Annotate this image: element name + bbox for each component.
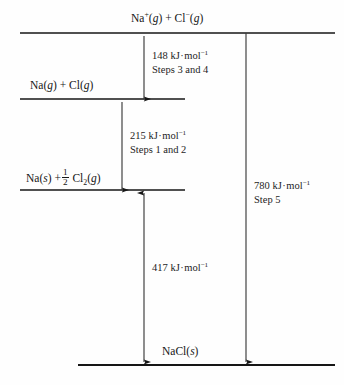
step-label-3-4: Steps 3 and 4 <box>152 63 208 77</box>
level-label-ionic-solid: NaCl(s) <box>162 345 198 358</box>
energy-value-215: 215 kJ·mol−1 <box>130 129 186 143</box>
annotation-417: 417 kJ·mol−1 <box>152 261 208 275</box>
formula-na-atom: Na(g) <box>30 79 57 91</box>
level-label-elements-standard: Na(s) +12 Cl2(g) <box>26 168 101 188</box>
energy-level-diagram: Na+(g) + Cl−(g) Na(g) + Cl(g) Na(s) +12 … <box>0 0 344 385</box>
annotation-148: 148 kJ·mol−1 Steps 3 and 4 <box>152 49 208 77</box>
annotation-215: 215 kJ·mol−1 Steps 1 and 2 <box>130 129 186 157</box>
level-label-ions-gas: Na+(g) + Cl−(g) <box>131 12 203 25</box>
step-label-1-2: Steps 1 and 2 <box>130 143 186 157</box>
step-label-5: Step 5 <box>254 193 310 207</box>
annotation-780: 780 kJ·mol−1 Step 5 <box>254 179 310 207</box>
formula-na-cation: Na+(g) <box>131 12 162 24</box>
formula-nacl-solid: NaCl(s) <box>162 345 198 357</box>
plus-separator: + <box>165 12 172 24</box>
plus-separator: + <box>60 79 67 91</box>
energy-value-417: 417 kJ·mol−1 <box>152 261 208 275</box>
energy-value-148: 148 kJ·mol−1 <box>152 49 208 63</box>
formula-cl-anion: Cl−(g) <box>175 12 204 24</box>
level-label-atoms-gas: Na(g) + Cl(g) <box>30 79 93 92</box>
fraction-one-half: 12 <box>62 168 69 188</box>
formula-cl-atom: Cl(g) <box>69 79 93 91</box>
formula-cl2-gas: Cl2(g) <box>72 172 100 184</box>
formula-na-solid: Na(s) <box>26 172 52 184</box>
energy-value-780: 780 kJ·mol−1 <box>254 179 310 193</box>
plus-separator: + <box>54 172 61 184</box>
